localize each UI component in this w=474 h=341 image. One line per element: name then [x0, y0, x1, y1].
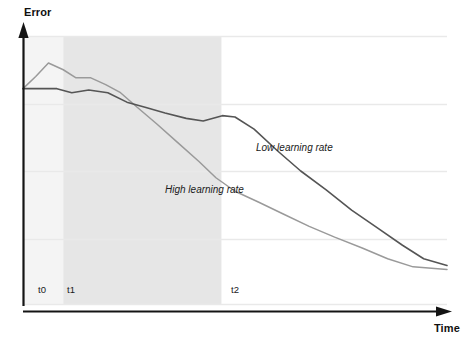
x-axis [23, 306, 452, 316]
chart-figure: Error Time t0 t1 t2 Low learning rate Hi… [0, 0, 474, 341]
shaded-band-pre-warmup [23, 36, 63, 304]
y-axis-arrowhead [18, 22, 28, 38]
shaded-band-warmup [63, 36, 221, 304]
x-axis-arrowhead [436, 306, 452, 316]
x-axis-label: Time [434, 322, 460, 334]
y-axis-label: Error [24, 6, 51, 18]
x-tick-label-t1: t1 [67, 284, 75, 295]
series-annotation-low-learning-rate: Low learning rate [256, 142, 333, 153]
x-tick-label-t0: t0 [38, 284, 46, 295]
x-tick-label-t2: t2 [231, 284, 239, 295]
series-annotation-high-learning-rate: High learning rate [165, 184, 244, 195]
